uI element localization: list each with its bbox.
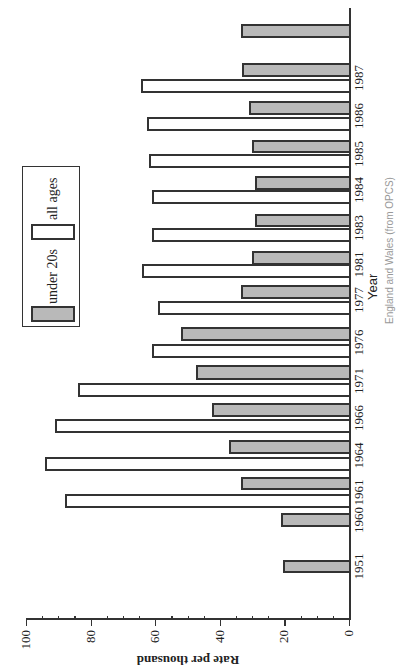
x-tick-label: 1983 xyxy=(351,208,367,248)
y-minor-tick xyxy=(236,616,237,620)
x-tick-label: 1971 xyxy=(351,361,367,401)
x-tick-label: 1984 xyxy=(351,170,367,210)
x-tick-label: 1976 xyxy=(351,323,367,363)
y-minor-tick xyxy=(123,616,124,620)
bar-under-20s-1951 xyxy=(283,560,349,573)
legend-label-all-ages: all ages xyxy=(45,178,61,220)
y-minor-tick xyxy=(188,616,189,620)
x-tick-label: 1961 xyxy=(351,473,367,513)
bar-all-ages-1983 xyxy=(152,228,349,242)
bar-under-20s-1986 xyxy=(249,101,349,115)
y-tick-label: 80 xyxy=(83,630,99,660)
y-major-tick xyxy=(155,619,156,626)
bar-under-20s-1971 xyxy=(196,365,349,380)
legend: under 20s all ages xyxy=(22,166,80,327)
bar-under-20s-extra xyxy=(241,24,349,38)
bar-under-20s-1984 xyxy=(255,176,349,190)
bar-under-20s-1964 xyxy=(229,440,349,454)
y-minor-tick xyxy=(74,616,75,620)
y-tick-label: 60 xyxy=(147,630,163,660)
y-major-tick xyxy=(26,619,27,626)
bar-all-ages-1984 xyxy=(152,190,349,204)
y-minor-tick xyxy=(301,616,302,620)
bar-all-ages-1986 xyxy=(147,117,349,131)
y-minor-tick xyxy=(317,616,318,620)
bar-all-ages-1985 xyxy=(149,154,349,168)
y-minor-tick xyxy=(171,616,172,620)
x-tick-label: 1981 xyxy=(351,245,367,285)
y-minor-tick xyxy=(252,616,253,620)
bar-under-20s-1961 xyxy=(241,477,349,490)
y-major-tick xyxy=(349,619,350,626)
legend-swatch-all-ages xyxy=(31,224,75,240)
x-tick-label: 1985 xyxy=(351,134,367,174)
y-minor-tick xyxy=(204,616,205,620)
x-tick-label: 1966 xyxy=(351,398,367,438)
legend-swatch-under-20s xyxy=(31,306,75,322)
y-major-tick xyxy=(91,619,92,626)
y-major-tick xyxy=(220,619,221,626)
x-tick-label: 1986 xyxy=(351,96,367,136)
y-tick-label: 40 xyxy=(212,630,228,660)
figure-caption: England and Wales (from OPCS) xyxy=(384,177,395,324)
y-tick-label: 0 xyxy=(341,630,357,660)
x-tick-label: 1977 xyxy=(351,280,367,320)
x-tick-label: 1987 xyxy=(351,58,367,98)
x-axis-label: Year xyxy=(365,274,380,300)
y-tick-label: 100 xyxy=(18,630,34,660)
bar-under-20s-1985 xyxy=(252,140,349,153)
bar-all-ages-1981 xyxy=(142,264,349,278)
y-minor-tick xyxy=(42,616,43,620)
bar-under-20s-1966 xyxy=(212,403,349,417)
y-tick-label: 20 xyxy=(276,630,292,660)
y-axis-label: Rate per thousand xyxy=(128,652,248,668)
y-major-tick xyxy=(284,619,285,626)
bar-all-ages-1971 xyxy=(78,383,349,397)
bar-all-ages-1964 xyxy=(45,457,349,471)
bar-under-20s-1977 xyxy=(241,285,349,299)
y-minor-tick xyxy=(58,616,59,620)
y-minor-tick xyxy=(107,616,108,620)
bar-under-20s-1981 xyxy=(252,251,349,265)
bar-under-20s-1983 xyxy=(255,214,349,227)
bar-all-ages-1977 xyxy=(158,301,349,315)
bar-under-20s-1960 xyxy=(281,513,349,527)
bar-under-20s-1987 xyxy=(242,63,349,77)
x-tick-label: 1951 xyxy=(351,547,367,587)
bar-all-ages-1961 xyxy=(65,494,349,508)
y-minor-tick xyxy=(139,616,140,620)
bar-all-ages-1966 xyxy=(55,419,349,433)
y-minor-tick xyxy=(333,616,334,620)
x-tick-label: 1964 xyxy=(351,436,367,476)
legend-label-under-20s: under 20s xyxy=(45,249,61,304)
bar-all-ages-1987 xyxy=(141,79,349,93)
bar-under-20s-1976 xyxy=(181,327,349,341)
bar-all-ages-1976 xyxy=(152,344,349,358)
y-minor-tick xyxy=(268,616,269,620)
